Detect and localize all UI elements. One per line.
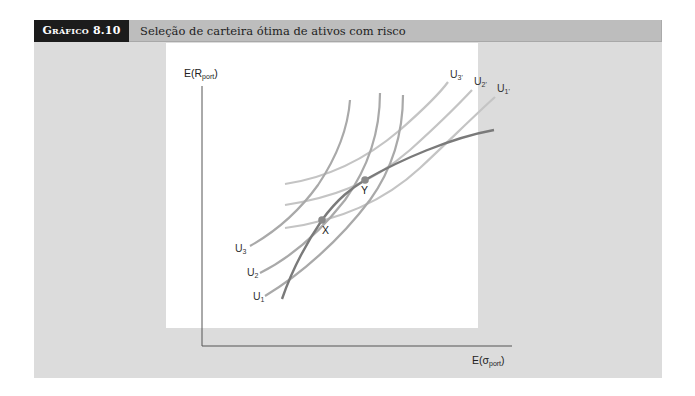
- label-u1: U1: [253, 290, 265, 303]
- y-axis-label: E(Rport): [184, 67, 218, 80]
- label-u3: U3: [235, 242, 247, 255]
- curve-u3-prime: [285, 82, 448, 184]
- curve-u3: [250, 100, 350, 246]
- label-u2-prime: U2': [474, 75, 487, 88]
- label-u1-prime: U1': [497, 82, 510, 95]
- x-axis-label: E(σport): [472, 354, 505, 367]
- point-x-marker: [318, 216, 326, 224]
- efficient-frontier: [282, 130, 494, 299]
- label-u3-prime: U3': [450, 68, 463, 81]
- chart-svg: [0, 0, 695, 396]
- label-u2: U2: [247, 266, 259, 279]
- point-y-label: Y: [361, 184, 368, 196]
- point-x-label: X: [322, 224, 329, 236]
- point-y-marker: [361, 176, 369, 184]
